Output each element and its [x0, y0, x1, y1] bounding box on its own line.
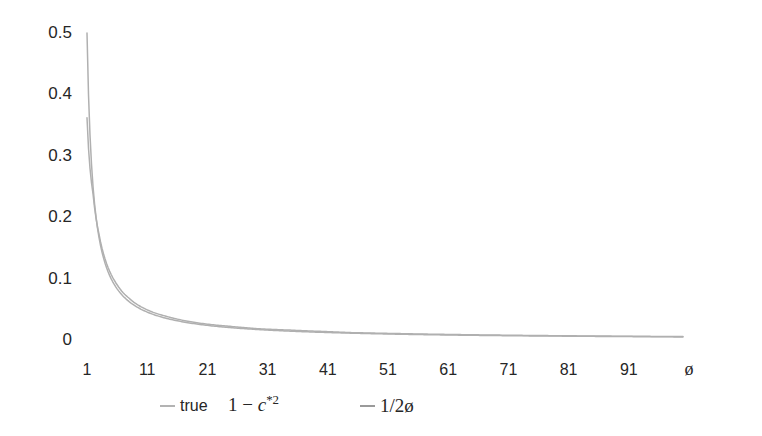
x-tick-label: 61	[439, 362, 457, 378]
x-tick-label: 91	[620, 362, 638, 378]
x-tick-label: 11	[139, 362, 156, 378]
x-axis-title: ø	[685, 360, 694, 378]
chart-legend: true 1 − c*2 1/2ø	[0, 394, 762, 426]
legend-item-half-phi: 1/2ø	[360, 396, 414, 415]
x-tick-label: 21	[198, 362, 216, 378]
legend-item-formula: 1 − c*2	[228, 394, 279, 414]
x-tick-label: 31	[259, 362, 277, 378]
x-tick-label: 81	[560, 362, 578, 378]
legend-line-swatch-true	[160, 405, 175, 407]
x-axis-tick-labels: 1112131415161718191ø	[0, 0, 762, 436]
x-tick-label: 1	[83, 362, 92, 378]
legend-line-swatch-half-phi	[360, 405, 375, 407]
legend-label-true: true	[180, 398, 208, 414]
legend-label-formula: 1 − c*2	[228, 394, 279, 414]
legend-formula-exponent: *2	[266, 392, 279, 407]
legend-item-true: true	[160, 398, 208, 414]
legend-label-half-phi: 1/2ø	[380, 396, 414, 415]
x-tick-label: 41	[319, 362, 337, 378]
legend-formula-variable: c	[258, 394, 266, 415]
legend-formula-lead: 1 −	[228, 394, 258, 415]
chart-container: 00.10.20.30.40.5 1112131415161718191ø tr…	[0, 0, 762, 436]
x-tick-label: 71	[499, 362, 517, 378]
x-tick-label: 51	[379, 362, 397, 378]
